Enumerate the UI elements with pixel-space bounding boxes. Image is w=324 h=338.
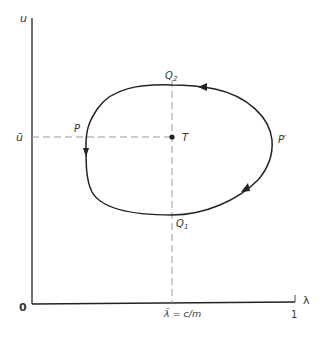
point-p-label: P (74, 123, 81, 134)
q1-subscript: 1 (184, 223, 188, 231)
x-max-label: 1 (291, 309, 297, 320)
arrow-down-icon (83, 148, 89, 157)
x-axis-label: λ (303, 294, 310, 307)
point-t-label: T (182, 132, 189, 143)
origin-label: 0 (19, 301, 27, 314)
q2-subscript: 2 (173, 75, 178, 83)
lambda-bar-label: λ̄ = c/m (163, 308, 201, 319)
phase-diagram: u ū 0 λ 1 λ̄ = c/m P P′ T Q2 Q1 (0, 0, 324, 338)
x-axis (32, 302, 295, 304)
arrow-left-icon (198, 83, 207, 91)
point-p-prime-label: P′ (278, 134, 287, 145)
limit-cycle-curve (86, 85, 272, 215)
point-q2-label: Q2 (165, 70, 178, 83)
y-axis-label: u (20, 12, 27, 25)
arrow-up-right-icon (241, 183, 250, 192)
equilibrium-point-t (169, 134, 174, 139)
u-bar-label: ū (16, 131, 23, 144)
point-q1-label: Q1 (176, 218, 188, 231)
